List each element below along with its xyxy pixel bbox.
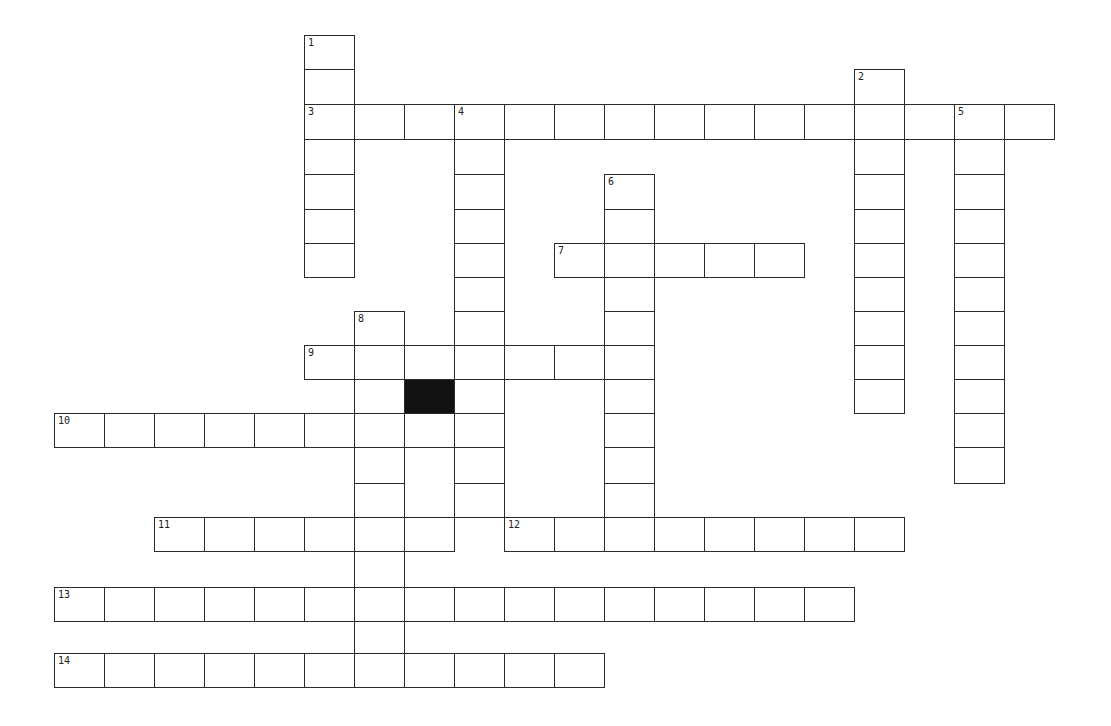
crossword-cell[interactable] — [204, 587, 255, 622]
crossword-cell[interactable]: 7 — [554, 243, 605, 278]
crossword-cell[interactable] — [304, 413, 355, 448]
crossword-cell[interactable] — [504, 653, 555, 688]
crossword-cell[interactable] — [504, 587, 555, 622]
crossword-cell[interactable] — [954, 311, 1005, 346]
crossword-cell[interactable] — [754, 104, 805, 140]
crossword-cell[interactable] — [704, 517, 755, 552]
crossword-cell[interactable] — [304, 517, 355, 552]
crossword-cell[interactable] — [854, 277, 905, 312]
crossword-cell[interactable] — [404, 413, 455, 448]
crossword-cell[interactable] — [104, 587, 155, 622]
crossword-cell[interactable] — [354, 379, 405, 414]
crossword-cell[interactable]: 6 — [604, 174, 655, 210]
crossword-cell[interactable] — [304, 209, 355, 244]
crossword-cell[interactable] — [854, 311, 905, 346]
crossword-cell[interactable] — [854, 379, 905, 414]
crossword-cell[interactable] — [404, 517, 455, 552]
crossword-cell[interactable] — [954, 413, 1005, 448]
crossword-cell[interactable] — [504, 104, 555, 140]
crossword-cell[interactable] — [954, 277, 1005, 312]
crossword-cell[interactable] — [854, 174, 905, 210]
crossword-cell[interactable] — [604, 104, 655, 140]
crossword-cell[interactable] — [854, 209, 905, 244]
crossword-cell[interactable] — [354, 551, 405, 588]
crossword-cell[interactable]: 8 — [354, 311, 405, 346]
crossword-cell[interactable] — [454, 139, 505, 175]
crossword-cell[interactable] — [904, 104, 955, 140]
crossword-cell[interactable] — [604, 311, 655, 346]
crossword-cell[interactable] — [254, 413, 305, 448]
crossword-cell[interactable] — [304, 174, 355, 210]
crossword-cell[interactable] — [954, 174, 1005, 210]
crossword-cell[interactable] — [604, 209, 655, 244]
crossword-cell[interactable] — [304, 587, 355, 622]
crossword-cell[interactable] — [654, 104, 705, 140]
crossword-cell[interactable] — [504, 345, 555, 380]
crossword-cell[interactable] — [354, 104, 405, 140]
crossword-cell[interactable] — [654, 517, 705, 552]
crossword-cell[interactable] — [954, 379, 1005, 414]
crossword-cell[interactable]: 4 — [454, 104, 505, 140]
crossword-cell[interactable] — [604, 447, 655, 484]
crossword-cell[interactable] — [354, 483, 405, 518]
crossword-cell[interactable] — [404, 104, 455, 140]
crossword-cell[interactable] — [304, 69, 355, 105]
crossword-cell[interactable] — [704, 243, 755, 278]
crossword-cell[interactable] — [954, 447, 1005, 484]
crossword-cell[interactable] — [454, 243, 505, 278]
crossword-cell[interactable] — [454, 483, 505, 518]
crossword-cell[interactable] — [354, 621, 405, 654]
crossword-cell[interactable] — [804, 587, 855, 622]
crossword-cell[interactable] — [254, 587, 305, 622]
crossword-cell[interactable] — [204, 517, 255, 552]
crossword-cell[interactable] — [604, 345, 655, 380]
crossword-cell[interactable] — [654, 587, 705, 622]
crossword-cell[interactable] — [254, 653, 305, 688]
crossword-cell[interactable] — [304, 653, 355, 688]
crossword-cell[interactable] — [604, 243, 655, 278]
crossword-cell[interactable] — [554, 653, 605, 688]
crossword-cell[interactable] — [454, 653, 505, 688]
crossword-cell[interactable] — [154, 587, 205, 622]
crossword-cell[interactable] — [404, 345, 455, 380]
crossword-cell[interactable]: 9 — [304, 345, 355, 380]
crossword-cell[interactable] — [154, 653, 205, 688]
crossword-cell[interactable] — [754, 243, 805, 278]
crossword-cell[interactable] — [304, 139, 355, 175]
crossword-cell[interactable] — [854, 517, 905, 552]
crossword-cell[interactable] — [854, 104, 905, 140]
crossword-cell[interactable] — [454, 277, 505, 312]
crossword-cell[interactable] — [454, 413, 505, 448]
crossword-cell[interactable] — [354, 653, 405, 688]
crossword-cell[interactable] — [604, 587, 655, 622]
crossword-cell[interactable] — [804, 517, 855, 552]
crossword-cell[interactable] — [604, 379, 655, 414]
crossword-cell[interactable]: 12 — [504, 517, 555, 552]
crossword-cell[interactable] — [954, 243, 1005, 278]
crossword-cell[interactable] — [104, 653, 155, 688]
crossword-cell[interactable] — [454, 447, 505, 484]
crossword-cell[interactable]: 14 — [54, 653, 105, 688]
crossword-cell[interactable] — [554, 517, 605, 552]
crossword-cell[interactable] — [1004, 104, 1055, 140]
crossword-cell[interactable] — [154, 413, 205, 448]
crossword-cell[interactable] — [654, 243, 705, 278]
crossword-cell[interactable] — [354, 587, 405, 622]
crossword-cell[interactable] — [554, 104, 605, 140]
crossword-cell[interactable] — [354, 345, 405, 380]
crossword-cell[interactable] — [454, 209, 505, 244]
crossword-cell[interactable] — [304, 243, 355, 278]
crossword-cell[interactable] — [604, 277, 655, 312]
crossword-cell[interactable] — [454, 311, 505, 346]
crossword-cell[interactable]: 2 — [854, 69, 905, 105]
crossword-cell[interactable] — [454, 174, 505, 210]
crossword-cell[interactable] — [704, 587, 755, 622]
crossword-cell[interactable] — [454, 345, 505, 380]
crossword-cell[interactable]: 3 — [304, 104, 355, 140]
crossword-cell[interactable]: 1 — [304, 35, 355, 70]
crossword-cell[interactable] — [204, 413, 255, 448]
crossword-cell[interactable] — [604, 517, 655, 552]
crossword-cell[interactable] — [554, 345, 605, 380]
crossword-cell[interactable] — [454, 379, 505, 414]
crossword-cell[interactable] — [854, 345, 905, 380]
